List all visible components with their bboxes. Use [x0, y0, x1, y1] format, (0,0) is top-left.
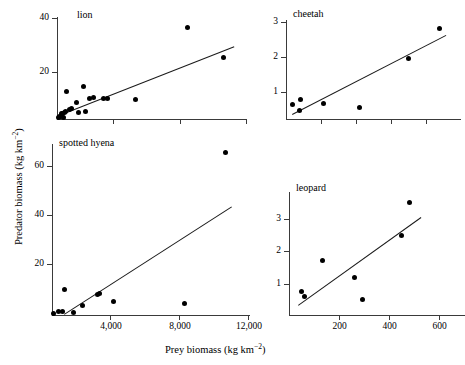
data-point: [62, 287, 67, 292]
leopard-x-tick: [389, 315, 390, 320]
data-point: [298, 97, 303, 102]
x-axis-title-paren: ): [262, 344, 266, 355]
hyena-y-tick-label: 40: [19, 210, 44, 220]
panel-leopard: leopard 3 2 1 200 400 600: [255, 150, 465, 335]
data-point: [437, 26, 442, 31]
hyena-x-tick: [248, 315, 249, 320]
regression-line: [292, 34, 446, 114]
leopard-x-tick-label: 600: [423, 322, 456, 332]
cheetah-y-tick-label: 2: [257, 52, 278, 62]
cheetah-plot-area: [286, 20, 461, 119]
data-point: [80, 303, 85, 308]
lion-plot-area: [57, 17, 247, 119]
figure-container: Predator biomass (kg km−2) Prey biomass …: [0, 0, 465, 365]
leopard-x-tick-label: 400: [373, 322, 406, 332]
data-point: [133, 97, 138, 102]
data-point: [320, 258, 325, 263]
data-point: [290, 102, 295, 107]
lion-x-tick: [113, 119, 114, 124]
regression-line: [59, 47, 235, 117]
leopard-y-tick-label: 3: [260, 214, 281, 224]
hyena-x-tick: [179, 315, 180, 320]
data-point: [407, 200, 412, 205]
data-point: [360, 297, 365, 302]
data-point: [221, 55, 226, 60]
hyena-y-tick-label: 60: [19, 161, 44, 171]
leopard-x-tick: [439, 315, 440, 320]
data-point: [399, 233, 404, 238]
panel-lion: lion 40 20: [0, 0, 250, 135]
data-point: [223, 150, 228, 155]
cheetah-x-axis: [286, 119, 461, 120]
data-point: [81, 84, 86, 89]
data-point: [111, 299, 116, 304]
data-point: [182, 301, 187, 306]
cheetah-y-tick-label: 3: [257, 17, 278, 27]
leopard-x-tick: [339, 315, 340, 320]
data-point: [357, 105, 362, 110]
data-point: [185, 25, 190, 30]
data-point: [97, 291, 102, 296]
cheetah-x-tick: [426, 119, 427, 124]
lion-y-tick-label: 20: [24, 67, 49, 77]
cheetah-y-tick-label: 1: [257, 87, 278, 97]
hyena-x-tick-label: 8,000: [159, 322, 201, 332]
data-point: [60, 309, 65, 314]
data-point: [71, 310, 76, 315]
lion-y-tick-label: 40: [24, 13, 49, 23]
lion-x-tick: [180, 119, 181, 124]
data-point: [105, 96, 110, 101]
data-point: [321, 101, 326, 106]
data-point: [64, 89, 69, 94]
lion-x-tick: [246, 119, 247, 124]
regression-line: [298, 217, 421, 306]
hyena-x-tick-label: 4,000: [90, 322, 132, 332]
panel-cheetah: cheetah 3 2 1: [255, 0, 465, 135]
leopard-x-tick-label: 200: [323, 322, 356, 332]
hyena-x-axis: [52, 315, 250, 316]
data-point: [302, 294, 307, 299]
cheetah-x-tick: [356, 119, 357, 124]
data-point: [61, 115, 66, 120]
x-axis-title: Prey biomass (kg km−2): [165, 345, 265, 356]
x-axis-title-text: Prey biomass (kg km: [165, 344, 254, 355]
data-point: [299, 289, 304, 294]
data-point: [406, 56, 411, 61]
regression-line: [64, 206, 232, 314]
leopard-y-tick-label: 1: [260, 279, 281, 289]
hyena-x-tick: [110, 315, 111, 320]
data-point: [83, 109, 88, 114]
data-point: [74, 100, 79, 105]
panel-hyena: spotted hyena 60 40 20 4,000 8,000 12,00…: [0, 130, 260, 330]
data-point: [352, 275, 357, 280]
lion-x-axis: [57, 119, 247, 120]
x-axis-title-exponent: −2: [254, 342, 262, 351]
data-point: [76, 110, 81, 115]
hyena-plot-area: [52, 144, 250, 315]
hyena-y-tick-label: 20: [19, 259, 44, 269]
leopard-plot-area: [289, 192, 465, 315]
cheetah-x-tick: [321, 119, 322, 124]
leopard-y-tick-label: 2: [260, 246, 281, 256]
panel-cheetah-title: cheetah: [293, 9, 324, 19]
data-point: [297, 108, 302, 113]
cheetah-x-tick: [391, 119, 392, 124]
